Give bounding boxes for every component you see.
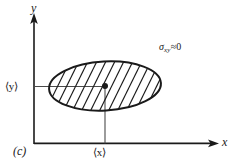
sigma-value: 0 bbox=[176, 41, 181, 52]
x-axis bbox=[34, 140, 219, 148]
figure-panel-c: y x ⟨y⟩ ⟨x⟩ (c) σxy≈0 bbox=[0, 0, 234, 166]
panel-label: (c) bbox=[13, 145, 26, 157]
x-mean-label: ⟨x⟩ bbox=[93, 147, 106, 158]
x-axis-label: x bbox=[222, 136, 227, 148]
covariance-annotation: σxy≈0 bbox=[159, 42, 181, 54]
figure-canvas bbox=[0, 0, 234, 166]
mean-guide-lines bbox=[34, 87, 105, 144]
sigma-subscript: xy bbox=[164, 46, 171, 54]
y-axis bbox=[30, 13, 38, 144]
y-axis-label: y bbox=[31, 2, 36, 14]
mean-point-marker bbox=[102, 83, 108, 89]
y-mean-label: ⟨y⟩ bbox=[5, 81, 18, 92]
